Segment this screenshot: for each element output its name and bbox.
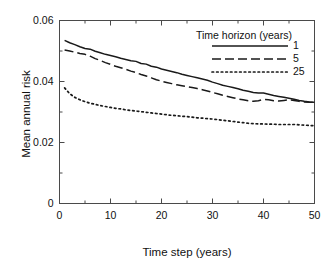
legend-lines — [212, 46, 288, 72]
x-tick-label: 30 — [196, 209, 230, 221]
x-tick-label: 0 — [43, 209, 77, 221]
y-tick-label: 0.02 — [20, 136, 54, 148]
legend-title: Time horizon (years) — [196, 29, 292, 41]
legend-label-1: 1 — [293, 39, 299, 51]
x-tick-label: 50 — [298, 209, 332, 221]
x-axis-label: Time step (years) — [59, 246, 315, 258]
x-tick-label: 10 — [94, 209, 128, 221]
plot-frame — [60, 21, 315, 204]
x-tick-label: 20 — [145, 209, 179, 221]
data-series — [65, 40, 315, 125]
legend-label-5: 5 — [293, 52, 299, 64]
y-axis-label: Mean annual risk — [20, 54, 32, 174]
y-tick-label: 0.06 — [20, 14, 54, 26]
series-line-25 — [65, 88, 315, 126]
chart-figure: Mean annual risk Time step (years) 00.02… — [0, 0, 333, 266]
x-tick-label: 40 — [247, 209, 281, 221]
axis-ticks — [60, 21, 315, 204]
y-tick-label: 0 — [20, 197, 54, 209]
y-tick-label: 0.04 — [20, 75, 54, 87]
legend-label-25: 25 — [293, 65, 305, 77]
